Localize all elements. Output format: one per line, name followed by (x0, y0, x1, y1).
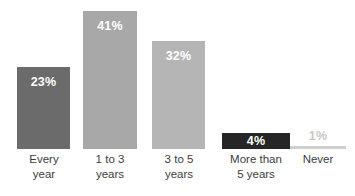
bar-value-more-than-5-years: 4% (222, 135, 290, 148)
bar-more-than-5-years[interactable]: 4% (222, 133, 290, 149)
axis-label-never: Never (288, 152, 348, 167)
axis-label-3-to-5-years: 3 to 5 years (142, 152, 216, 181)
bar-never[interactable]: 1% (290, 146, 346, 149)
axis-label-every-year: Every year (7, 152, 81, 181)
bar-value-never: 1% (290, 130, 346, 143)
bar-1-to-3-years[interactable]: 41% (83, 11, 137, 149)
category-axis: Every year 1 to 3 years 3 to 5 years Mor… (0, 152, 355, 196)
bar-group-never: 1% (290, 146, 346, 149)
bar-every-year[interactable]: 23% (17, 67, 70, 149)
bar-group-1-to-3-years: 41% (83, 11, 137, 149)
bar-group-3-to-5-years: 32% (152, 41, 205, 149)
bar-3-to-5-years[interactable]: 32% (152, 41, 205, 149)
axis-label-1-to-3-years: 1 to 3 years (73, 152, 147, 181)
bar-group-every-year: 23% (17, 67, 70, 149)
plot-area: 23% 41% 32% 4% 1% (0, 0, 355, 149)
bar-value-1-to-3-years: 41% (83, 20, 137, 33)
axis-label-more-than-5-years: More than 5 years (214, 152, 298, 181)
bar-value-3-to-5-years: 32% (152, 50, 205, 63)
bar-value-every-year: 23% (17, 76, 70, 89)
bar-chart: 23% 41% 32% 4% 1% Every (0, 0, 355, 196)
bar-group-more-than-5-years: 4% (222, 133, 290, 149)
